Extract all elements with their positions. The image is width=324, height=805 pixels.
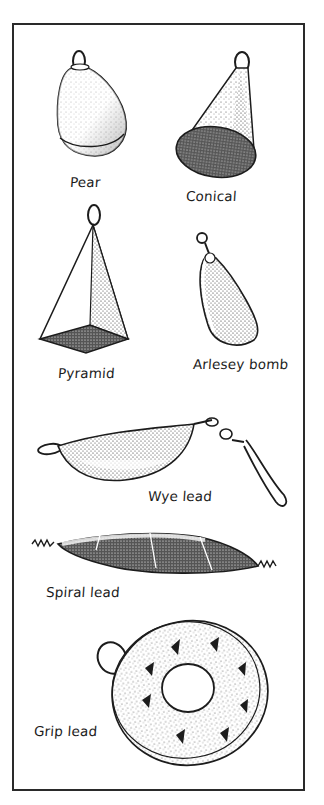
pyramid-sinker-icon <box>40 205 128 353</box>
label-wye-lead: Wye lead <box>147 488 212 504</box>
conical-sinker-icon <box>173 52 259 182</box>
sinker-illustrations <box>0 0 324 805</box>
pear-sinker-icon <box>58 51 127 156</box>
label-conical: Conical <box>185 188 237 204</box>
label-spiral-lead: Spiral lead <box>45 584 120 600</box>
label-pyramid: Pyramid <box>57 365 115 381</box>
label-arlesey-bomb: Arlesey bomb <box>192 356 289 372</box>
arlesey-bomb-sinker-icon <box>197 233 258 345</box>
grip-lead-sinker-icon <box>93 609 280 778</box>
label-pear: Pear <box>69 174 101 190</box>
spiral-lead-sinker-icon <box>32 533 276 573</box>
label-grip-lead: Grip lead <box>33 723 97 739</box>
